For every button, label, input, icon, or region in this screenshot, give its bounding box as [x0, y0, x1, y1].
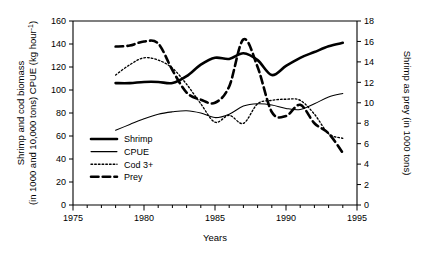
y-left-tick-label: 0: [61, 200, 66, 210]
y-right-tick-label: 8: [364, 118, 369, 128]
x-tick-label: 1980: [134, 213, 154, 223]
legend-label-cpue: CPUE: [124, 147, 149, 157]
x-axis-title: Years: [203, 232, 227, 243]
chart-legend: ShrimpCPUECod 3+Prey: [91, 134, 153, 182]
y-left-tick-label: 160: [51, 16, 66, 26]
legend-label-prey: Prey: [124, 172, 143, 182]
series-line-cpue: [116, 93, 343, 130]
axis-ticks: [69, 21, 361, 211]
y-right-tick-label: 4: [364, 159, 369, 169]
y-right-tick-label: 10: [364, 98, 374, 108]
y-left-tick-label: 60: [56, 131, 66, 141]
y-left-tick-label: 20: [56, 177, 66, 187]
y-left-tick-label: 80: [56, 108, 66, 118]
series-line-shrimp: [116, 43, 343, 84]
y-left-tick-label: 140: [51, 39, 66, 49]
y-right-tick-label: 2: [364, 180, 369, 190]
legend-label-shrimp: Shrimp: [124, 134, 153, 144]
y-right-tick-label: 0: [364, 200, 369, 210]
y-left-tick-label: 40: [56, 154, 66, 164]
x-tick-label: 1995: [347, 213, 367, 223]
x-tick-label: 1985: [205, 213, 225, 223]
x-tick-label: 1990: [276, 213, 296, 223]
figure-container: 0204060801001201401600246810121416181975…: [0, 0, 425, 257]
y-right-axis-title: Shrimp as prey (in 1000 tons): [402, 51, 413, 176]
y-right-tick-label: 12: [364, 78, 374, 88]
y-right-tick-label: 18: [364, 16, 374, 26]
y-left-axis-title-line2: (in 1000 and 10,000 tons) CPUE (kg hour-…: [27, 21, 38, 205]
y-left-tick-label: 120: [51, 62, 66, 72]
y-right-tick-label: 6: [364, 139, 369, 149]
axis-titles: YearsShrimp and cod biomass(in 1000 and …: [15, 21, 413, 243]
legend-label-cod-3: Cod 3+: [124, 160, 153, 170]
y-right-tick-label: 16: [364, 37, 374, 47]
series-line-cod-3: [116, 58, 343, 139]
chart-svg: 0204060801001201401600246810121416181975…: [0, 0, 425, 257]
y-left-tick-label: 100: [51, 85, 66, 95]
x-tick-label: 1975: [63, 213, 83, 223]
y-left-axis-title-line1: Shrimp and cod biomass: [15, 60, 26, 165]
y-right-tick-label: 14: [364, 57, 374, 67]
